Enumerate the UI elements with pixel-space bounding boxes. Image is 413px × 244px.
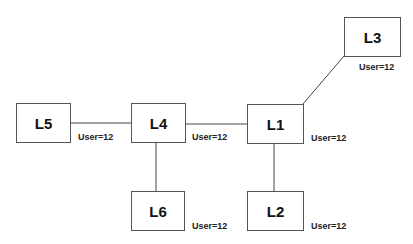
node-l5-label: L5 [35, 115, 53, 132]
node-l3-user: User=12 [359, 62, 394, 72]
node-l2-user: User=12 [311, 221, 346, 231]
node-l6-user: User=12 [192, 221, 227, 231]
node-l5-user: User=12 [78, 132, 113, 142]
node-l1: L1 [247, 104, 304, 144]
node-l2-label: L2 [267, 203, 285, 220]
node-l6-label: L6 [149, 203, 167, 220]
edge-l1-l3 [303, 56, 344, 104]
node-l5: L5 [16, 103, 71, 143]
node-l4-user: User=12 [192, 132, 227, 142]
node-l4-label: L4 [150, 115, 168, 132]
node-l3: L3 [344, 17, 401, 57]
node-l4: L4 [131, 103, 186, 143]
node-l6: L6 [131, 191, 185, 231]
node-l1-label: L1 [267, 116, 285, 133]
node-l1-user: User=12 [311, 133, 346, 143]
node-l3-label: L3 [364, 29, 382, 46]
node-l2: L2 [247, 191, 304, 231]
